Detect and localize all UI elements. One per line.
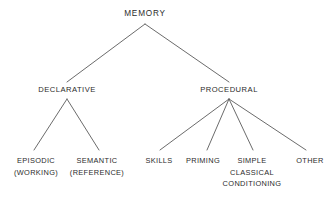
node-semantic-label-line2: (REFERENCE) [70,167,124,179]
node-priming: PRIMING [186,155,220,167]
node-memory: MEMORY [124,8,166,20]
edge-declarative-to-semantic [67,99,99,150]
node-simple-classical-conditioning-label-line1: SIMPLE [223,155,282,167]
edge-memory-to-declarative [67,24,145,82]
node-priming-label-line1: PRIMING [186,155,220,167]
node-skills-label-line1: SKILLS [145,155,172,167]
edge-declarative-to-episodic [34,99,67,150]
node-semantic: SEMANTIC (REFERENCE) [70,155,124,178]
node-other-label-line1: OTHER [296,155,324,167]
node-procedural: PROCEDURAL [200,84,258,96]
node-simple-classical-conditioning: SIMPLE CLASSICAL CONDITIONING [223,155,282,190]
node-skills: SKILLS [145,155,172,167]
node-declarative: DECLARATIVE [38,84,96,96]
node-memory-label: MEMORY [124,8,166,20]
node-procedural-label: PROCEDURAL [200,84,258,96]
node-episodic-label-line1: EPISODIC [14,155,58,167]
node-simple-classical-conditioning-label-line2: CLASSICAL [223,167,282,179]
node-simple-classical-conditioning-label-line3: CONDITIONING [223,178,282,190]
node-semantic-label-line1: SEMANTIC [70,155,124,167]
memory-tree-diagram: MEMORY DECLARATIVE PROCEDURAL EPISODIC (… [0,0,331,197]
edge-memory-to-procedural [145,24,229,82]
node-episodic: EPISODIC (WORKING) [14,155,58,178]
node-episodic-label-line2: (WORKING) [14,167,58,179]
node-declarative-label: DECLARATIVE [38,84,96,96]
node-other: OTHER [296,155,324,167]
edge-procedural-to-skills [160,99,229,150]
